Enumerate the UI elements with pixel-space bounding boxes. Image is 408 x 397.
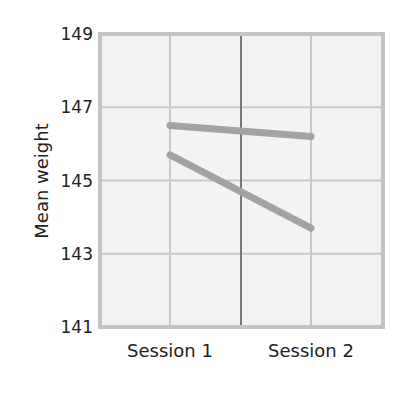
y-tick-label: 141 (61, 317, 93, 337)
y-tick-label: 147 (61, 97, 93, 117)
y-tick-label: 149 (61, 24, 93, 44)
y-axis-label: Mean weight (31, 123, 52, 238)
y-tick-label: 143 (61, 244, 93, 264)
y-tick-label: 145 (61, 171, 93, 191)
line-chart: 141143145147149 Session 1Session 2 Mean … (0, 0, 408, 397)
x-axis-ticks: Session 1Session 2 (127, 340, 354, 361)
x-tick-label: Session 1 (127, 340, 213, 361)
y-axis-ticks: 141143145147149 (61, 24, 93, 337)
x-tick-label: Session 2 (268, 340, 354, 361)
